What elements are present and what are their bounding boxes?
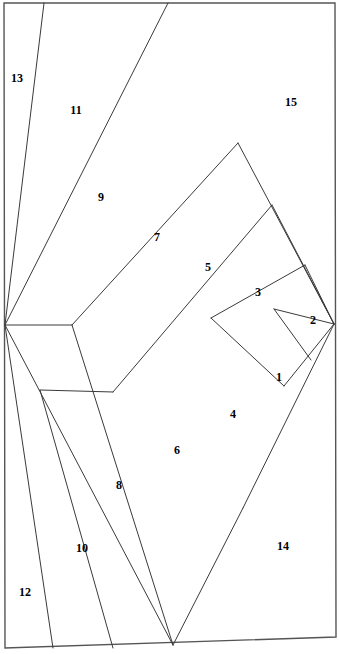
- region-9: 9: [98, 191, 104, 203]
- region-5: 5: [205, 261, 211, 273]
- region-12: 12: [19, 586, 31, 598]
- region-3: 3: [255, 286, 261, 298]
- region-4: 4: [230, 408, 236, 420]
- region-8: 8: [116, 479, 122, 491]
- region-6: 6: [174, 444, 180, 456]
- region-7: 7: [154, 231, 160, 243]
- region-15: 15: [285, 96, 297, 108]
- region-10: 10: [76, 542, 88, 554]
- region-14: 14: [277, 540, 289, 552]
- geometric-region-diagram: 123456789101112131415: [0, 0, 339, 654]
- region-11: 11: [70, 104, 81, 116]
- region-2: 2: [310, 314, 316, 326]
- region-13: 13: [11, 72, 23, 84]
- region-1: 1: [276, 371, 282, 383]
